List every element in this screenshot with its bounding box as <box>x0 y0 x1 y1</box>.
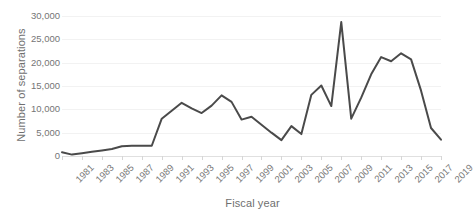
x-axis-tick-label: 2011 <box>372 162 394 184</box>
x-axis-tick-label: 2017 <box>432 162 455 185</box>
x-axis-tick-label: 2001 <box>273 162 296 185</box>
x-axis-title: Fiscal year <box>60 196 445 210</box>
x-axis-tick-label: 1997 <box>233 162 256 185</box>
x-axis-tick-label: 1989 <box>153 162 176 185</box>
x-axis-tick-label: 1987 <box>133 162 156 185</box>
x-axis-tick-label: 1999 <box>253 162 276 185</box>
x-axis-tick-label: 1995 <box>213 162 236 185</box>
x-axis-tick-label: 2015 <box>412 162 435 185</box>
x-axis-tick-label: 2009 <box>352 162 375 185</box>
x-axis-tick-label: 2005 <box>313 162 336 185</box>
x-axis-tick-label: 1983 <box>93 162 116 185</box>
x-axis-tick-label: 1993 <box>193 162 216 185</box>
x-axis-tick-label: 2019 <box>452 162 475 185</box>
x-axis-tick-label: 2013 <box>392 162 415 185</box>
x-axis-tick-label: 1985 <box>113 162 136 185</box>
x-axis-tick-label: 2003 <box>293 162 316 185</box>
x-axis-tick-label: 2007 <box>333 162 356 185</box>
x-axis-tick-label: 1991 <box>173 162 196 185</box>
x-axis-tick-label: 1981 <box>73 162 96 185</box>
